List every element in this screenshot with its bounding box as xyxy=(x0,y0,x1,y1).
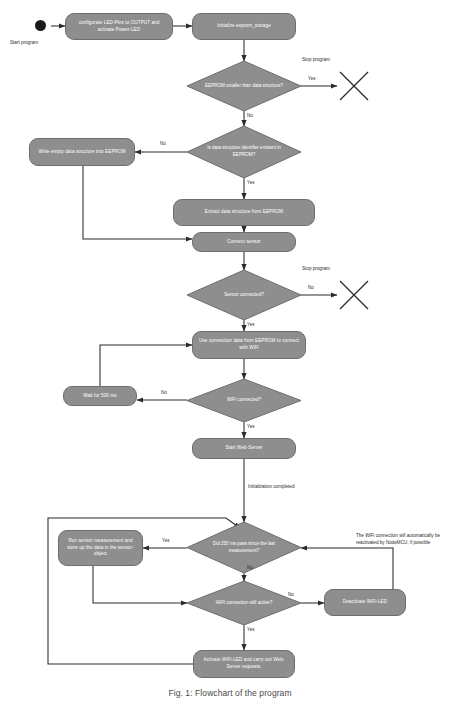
note-wifi-reactivation: The WiFi connection will automatically b… xyxy=(356,533,452,547)
decision-label: EEPROM smaller than data structure? xyxy=(203,61,285,111)
initialization-completed-label: Initialization completed xyxy=(248,484,294,491)
action-deactivate-wifi-led: Deactivate WiFi-LED xyxy=(324,589,406,616)
stop-program-label-2: Stop program xyxy=(302,266,330,273)
action-connect-sensor: Connect sensor xyxy=(192,232,296,252)
decision-did-250ms-pass: Did 250 ms pass since the last measureme… xyxy=(187,522,301,573)
flowchart-canvas: Start program configurate LED-Pins to OU… xyxy=(0,0,460,705)
edge-label-eeprom-smaller-yes: Yes xyxy=(308,76,316,81)
decision-sensor-connected: Sensor connected? xyxy=(187,270,301,320)
edge-label-wifi-connected-yes: Yes xyxy=(247,424,255,429)
edge-label-sensor-connected-yes: Yes xyxy=(247,322,255,327)
action-run-sensor-measurement: Run sensor measurement and store up the … xyxy=(58,530,143,566)
action-configure-led-pins: configurate LED-Pins to OUTPUT and activ… xyxy=(65,13,173,40)
edge-label-sensor-connected-no: No xyxy=(308,285,314,290)
action-extract-data-structure: Extract data structure from EEPROM xyxy=(173,199,315,226)
action-initialize-eeprom-storage: Initialize eeprom_storage xyxy=(192,13,296,40)
figure-caption: Fig. 1: Flowchart of the program xyxy=(0,688,460,698)
action-write-empty-data-structure: Write empty data structure into EEPROM xyxy=(29,138,135,166)
decision-wifi-connection-still-active: WiFi connection still active? xyxy=(187,581,301,625)
edge-label-did-250ms-no: No xyxy=(247,565,253,570)
decision-wifi-connected: WiFi connected? xyxy=(187,379,301,422)
edge-label-identifier-existent-yes: Yes xyxy=(247,180,255,185)
decision-data-structure-identifier-existent: Is data structure identifier existent in… xyxy=(187,126,301,178)
action-use-connection-data-from-eeprom: Use connection data from EEPROM to conne… xyxy=(192,331,306,359)
decision-eeprom-smaller-than-data-structure: EEPROM smaller than data structure? xyxy=(187,61,301,111)
edge-label-did-250ms-yes: Yes xyxy=(162,538,170,543)
edge-label-eeprom-smaller-no: No xyxy=(247,113,253,118)
edge-label-wifi-connected-no: No xyxy=(161,390,167,395)
decision-label: WiFi connection still active? xyxy=(203,581,285,625)
edge-label-identifier-existent-no: No xyxy=(160,141,166,146)
stop-node-x-1 xyxy=(338,70,370,106)
decision-label: Did 250 ms pass since the last measureme… xyxy=(203,522,285,573)
decision-label: Sensor connected? xyxy=(203,270,285,320)
stop-program-label-1: Stop program xyxy=(302,57,330,64)
action-start-web-server: Start Web-Server xyxy=(192,438,296,459)
decision-label: WiFi connected? xyxy=(203,379,285,422)
decision-label: Is data structure identifier existent in… xyxy=(203,126,285,178)
action-activate-wifi-led: Activate WiFi-LED and carry out Web-Serv… xyxy=(193,650,295,678)
action-wait-500ms: Wait for 500 ms xyxy=(63,386,137,406)
start-node-dot xyxy=(35,20,46,31)
start-program-label: Start program xyxy=(10,40,38,47)
stop-node-x-2 xyxy=(338,279,370,315)
edge-label-wifi-still-active-yes: Yes xyxy=(247,627,255,632)
edge-label-wifi-still-active-no: No xyxy=(288,592,294,597)
